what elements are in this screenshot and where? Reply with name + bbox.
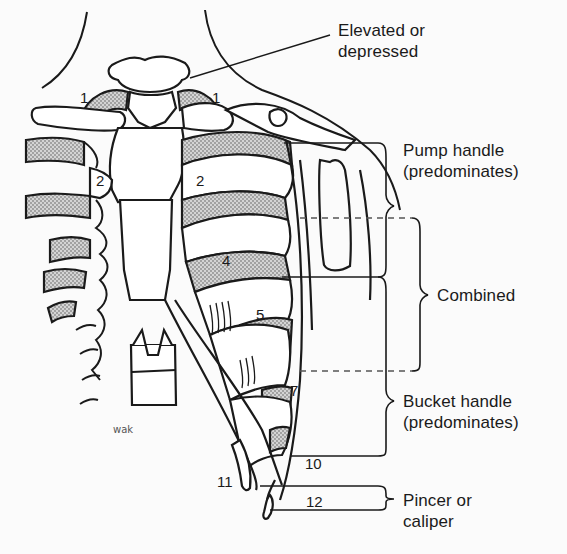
- vertebra-body: [131, 330, 176, 405]
- label-elevated-or-depressed: Elevated or depressed: [338, 20, 425, 62]
- rib-number-2-right: 2: [196, 173, 204, 189]
- label-pump-line1: Pump handle: [403, 140, 519, 161]
- rib-number-10: 10: [305, 456, 322, 472]
- rib-number-4: 4: [222, 253, 230, 269]
- label-pump-line2: (predominates): [403, 161, 519, 182]
- label-pincer-or-caliper: Pincer or caliper: [403, 490, 472, 532]
- rib-cage-illustration: [0, 0, 567, 554]
- artist-signature: wak: [113, 424, 133, 435]
- rib-number-5: 5: [256, 307, 264, 323]
- rib-number-12: 12: [306, 494, 323, 510]
- label-combined-line1: Combined: [437, 285, 515, 306]
- label-pump-handle: Pump handle (predominates): [403, 140, 519, 182]
- label-bucket-line2: (predominates): [403, 412, 519, 433]
- label-bucket-line1: Bucket handle: [403, 391, 519, 412]
- label-bucket-handle: Bucket handle (predominates): [403, 391, 519, 433]
- sternum: [110, 128, 184, 300]
- label-pincer-line1: Pincer or: [403, 490, 472, 511]
- rib-number-1-left: 1: [80, 90, 88, 106]
- scapula: [300, 160, 371, 330]
- clavicle-left: [32, 107, 125, 131]
- label-pincer-line2: caliper: [403, 511, 472, 532]
- braces: [378, 143, 428, 510]
- rib-number-11: 11: [217, 474, 233, 490]
- rib-number-2-left: 2: [96, 173, 104, 189]
- label-elevated-line1: Elevated or: [338, 20, 425, 41]
- dashed-lines: [300, 218, 412, 371]
- rib-number-1-right: 1: [212, 90, 220, 106]
- label-combined: Combined: [437, 285, 515, 306]
- label-elevated-line2: depressed: [338, 41, 425, 62]
- rib-number-7: 7: [290, 383, 298, 399]
